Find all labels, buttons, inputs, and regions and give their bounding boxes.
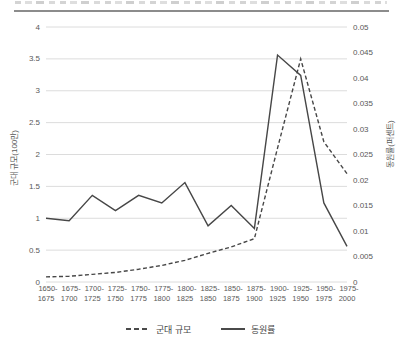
x-axis-tick-top: 1675- <box>62 284 82 293</box>
y-axis-tick-left: 0.5 <box>29 246 41 255</box>
legend-item-mobilization-rate: 동원률 <box>221 323 275 336</box>
y-axis-tick-left: 1 <box>36 214 41 223</box>
legend-label-army-size: 군대 규모 <box>156 323 191 336</box>
x-axis-tick-bottom: 1725 <box>84 294 101 303</box>
y-axis-tick-right: 0.04 <box>353 74 369 83</box>
y-axis-tick-right: 0.015 <box>353 201 374 210</box>
x-axis-tick-bottom: 1925 <box>269 294 286 303</box>
y-axis-tick-left: 3.5 <box>29 54 41 63</box>
y-axis-tick-left: 1.5 <box>29 182 41 191</box>
x-axis-tick-top: 1875- <box>247 284 267 293</box>
x-axis-tick-bottom: 1950 <box>292 294 309 303</box>
x-axis-tick-bottom: 1850 <box>200 294 217 303</box>
x-axis-tick-top: 1775- <box>154 284 174 293</box>
x-axis-tick-bottom: 2000 <box>339 294 356 303</box>
legend-label-mobilization-rate: 동원률 <box>251 323 275 336</box>
series-line-mobilization-rate <box>46 55 347 246</box>
line-chart: 00.511.522.533.5400.0050.010.0150.020.02… <box>0 0 401 351</box>
chart-legend: 군대 규모 동원률 <box>0 321 401 337</box>
x-axis-tick-top: 1750- <box>131 284 151 293</box>
y-axis-tick-left: 3 <box>36 86 41 95</box>
x-axis-tick-top: 1850- <box>224 284 244 293</box>
x-axis-tick-bottom: 1750 <box>107 294 124 303</box>
x-axis-tick-top: 1900- <box>270 284 290 293</box>
solid-line-swatch-icon <box>221 328 245 330</box>
x-axis-tick-top: 1925- <box>293 284 313 293</box>
x-axis-tick-top: 1650- <box>38 284 58 293</box>
y-axis-tick-right: 0.025 <box>353 150 374 159</box>
x-axis-tick-bottom: 1875 <box>223 294 240 303</box>
x-axis-tick-top: 1825- <box>200 284 220 293</box>
y-axis-tick-right: 0.005 <box>353 252 374 261</box>
x-axis-tick-bottom: 1800 <box>153 294 170 303</box>
left-axis-title: 군대 규모(100만) <box>8 130 19 186</box>
x-axis-tick-bottom: 1825 <box>177 294 194 303</box>
x-axis-tick-top: 1700- <box>85 284 105 293</box>
y-axis-tick-left: 4 <box>36 23 41 32</box>
y-axis-tick-right: 0.045 <box>353 48 374 57</box>
x-axis-tick-bottom: 1700 <box>61 294 78 303</box>
x-axis-tick-bottom: 1975 <box>316 294 333 303</box>
series-line-army-size <box>46 59 347 277</box>
y-axis-tick-left: 2 <box>36 150 41 159</box>
x-axis-tick-bottom: 1775 <box>130 294 147 303</box>
y-axis-tick-right: 0.035 <box>353 99 374 108</box>
y-axis-tick-right: 0.01 <box>353 227 369 236</box>
y-axis-tick-left: 2.5 <box>29 118 41 127</box>
legend-item-army-size: 군대 규모 <box>126 323 191 336</box>
right-axis-title: 동원률(퍼센트) <box>384 120 395 167</box>
x-axis-tick-bottom: 1675 <box>38 294 55 303</box>
y-axis-tick-right: 0.05 <box>353 23 369 32</box>
y-axis-tick-right: 0.03 <box>353 125 369 134</box>
x-axis-tick-top: 1950- <box>316 284 336 293</box>
x-axis-tick-top: 1800- <box>177 284 197 293</box>
y-axis-tick-right: 0.02 <box>353 176 369 185</box>
x-axis-tick-top: 1725- <box>108 284 128 293</box>
figure-page: { "figure": { "top_rule_color": "#8c8c8c… <box>0 0 401 351</box>
dashed-line-swatch-icon <box>126 328 150 330</box>
x-axis-tick-top: 1975- <box>339 284 359 293</box>
x-axis-tick-bottom: 1900 <box>246 294 263 303</box>
